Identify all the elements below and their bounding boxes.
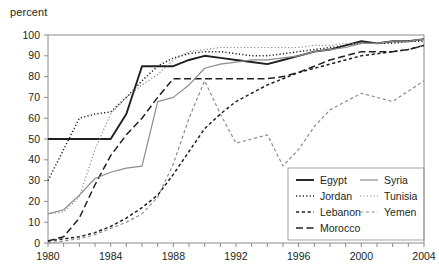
legend-label: Egypt: [320, 174, 347, 186]
y-tick-label: 100: [22, 29, 40, 41]
series-line-yemen: [48, 81, 424, 243]
y-tick-label: 30: [28, 174, 40, 186]
legend-layer: EgyptJordanLebanonMoroccoSyriaTunisiaYem…: [288, 168, 424, 240]
legend-label: Yemen: [384, 206, 416, 218]
legend-label: Jordan: [320, 190, 352, 202]
x-tick-label: 1996: [287, 250, 311, 262]
y-axis-unit-label: percent: [10, 6, 47, 18]
legend-item-syria[interactable]: Syria: [360, 174, 408, 186]
y-tick-label: 40: [28, 153, 40, 165]
legend-item-jordan[interactable]: Jordan: [296, 190, 352, 202]
series-line-syria: [48, 39, 424, 214]
x-tick-label: 1980: [36, 250, 60, 262]
legend-item-tunisia[interactable]: Tunisia: [360, 190, 418, 202]
legend-item-yemen[interactable]: Yemen: [360, 206, 416, 218]
y-tick-label: 90: [28, 49, 40, 61]
y-tick-label: 10: [28, 216, 40, 228]
legend-item-egypt[interactable]: Egypt: [296, 174, 347, 186]
legend-label: Morocco: [320, 222, 360, 234]
line-chart: 0102030405060708090100198019841988199219…: [0, 0, 439, 276]
axes-layer: 0102030405060708090100198019841988199219…: [22, 29, 435, 262]
y-tick-label: 60: [28, 112, 40, 124]
x-tick-label: 1984: [99, 250, 123, 262]
y-tick-label: 70: [28, 91, 40, 103]
x-tick-label: 1988: [162, 250, 186, 262]
legend-label: Tunisia: [384, 190, 418, 202]
y-tick-label: 0: [34, 237, 40, 249]
x-tick-label: 1992: [224, 250, 248, 262]
y-tick-label: 80: [28, 70, 40, 82]
legend-item-lebanon[interactable]: Lebanon: [296, 206, 361, 218]
y-tick-label: 50: [28, 133, 40, 145]
series-line-tunisia: [48, 39, 424, 214]
x-tick-label: 2004: [412, 250, 436, 262]
y-tick-label: 20: [28, 195, 40, 207]
legend-label: Syria: [384, 174, 408, 186]
legend-item-morocco[interactable]: Morocco: [296, 222, 360, 234]
x-tick-label: 2000: [350, 250, 374, 262]
legend-label: Lebanon: [320, 206, 361, 218]
chart-container: percent 01020304050607080901001980198419…: [0, 0, 439, 276]
